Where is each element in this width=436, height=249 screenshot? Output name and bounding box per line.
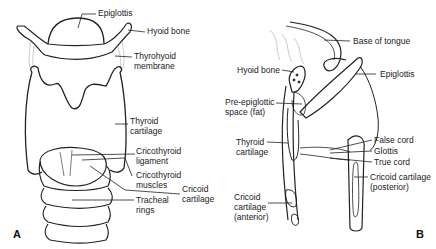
label-cricoid-posterior-line1: Cricoid cartilage bbox=[370, 173, 431, 182]
panel-letter-a: A bbox=[13, 228, 21, 240]
label-false-cord: False cord bbox=[374, 136, 414, 145]
label-cricoid-cartilage-line1: Cricoid bbox=[182, 185, 208, 194]
label-thyroid-cartilage-b-line2: cartilage bbox=[236, 148, 268, 157]
label-thyrohyoid-membrane-line2: membrane bbox=[134, 62, 175, 71]
label-pre-epiglottic-line1: Pre-epiglottic bbox=[225, 98, 275, 107]
label-cricoid-anterior-line1: Cricoid bbox=[234, 193, 260, 202]
label-hyoid-bone-a: Hyoid bone bbox=[147, 27, 190, 36]
label-cricoid-cartilage-line2: cartilage bbox=[182, 195, 214, 204]
label-thyroid-cartilage-a-line1: Thyroid bbox=[130, 117, 158, 126]
label-cricothyroid-ligament-line1: Cricothyroid bbox=[136, 147, 181, 156]
label-cricothyroid-ligament-line2: ligament bbox=[136, 157, 168, 166]
label-tracheal-rings-line2: rings bbox=[136, 206, 154, 215]
sagittal-larynx-drawing bbox=[267, 22, 378, 231]
label-thyroid-cartilage-b-line1: Thyroid bbox=[236, 138, 264, 147]
panel-letter-b: B bbox=[416, 228, 424, 240]
label-cricoid-posterior-line2: (posterior) bbox=[370, 183, 409, 192]
label-epiglottis-a: Epiglottis bbox=[98, 9, 133, 18]
label-epiglottis-b: Epiglottis bbox=[380, 70, 415, 79]
label-thyrohyoid-membrane-line1: Thyrohyoid bbox=[134, 52, 176, 61]
label-base-of-tongue: Base of tongue bbox=[353, 37, 410, 46]
label-pre-epiglottic-line2: space (fat) bbox=[225, 108, 265, 117]
label-cricoid-anterior-line2: cartilage bbox=[234, 203, 266, 212]
label-glottis: Glottis bbox=[374, 147, 398, 156]
label-true-cord: True cord bbox=[374, 158, 410, 167]
label-tracheal-rings-line1: Tracheal bbox=[136, 196, 169, 205]
label-thyroid-cartilage-a-line2: cartilage bbox=[130, 127, 162, 136]
label-cricothyroid-muscles-line1: Cricothyroid bbox=[136, 171, 181, 180]
label-cricoid-anterior-line3: (anterior) bbox=[234, 213, 268, 222]
label-hyoid-bone-b: Hyoid bone bbox=[237, 66, 280, 75]
label-cricothyroid-muscles-line2: muscles bbox=[136, 181, 167, 190]
